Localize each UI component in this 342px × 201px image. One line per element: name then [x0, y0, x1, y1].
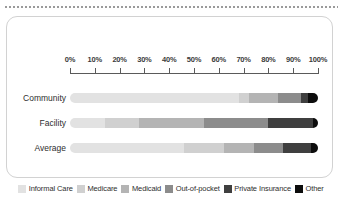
x-axis-tick-label: 80% [261, 55, 275, 64]
bar-row: Community [6, 92, 333, 104]
bar-segment[interactable] [70, 93, 239, 103]
x-axis: 0%10%20%30%40%50%60%70%80%90%100% [70, 56, 318, 78]
top-dotted-divider [4, 6, 338, 8]
legend-item[interactable]: Out-of-pocket [165, 184, 220, 193]
x-axis-tick-label: 50% [187, 55, 201, 64]
bar-segment[interactable] [224, 143, 254, 153]
legend-label: Out-of-pocket [176, 184, 220, 193]
chart-legend: Informal CareMedicareMedicaidOut-of-pock… [0, 184, 342, 193]
legend-label: Informal Care [29, 184, 73, 193]
x-axis-tick [70, 68, 71, 74]
x-axis-tick-label: 90% [286, 55, 300, 64]
legend-label: Medicare [87, 184, 117, 193]
x-axis-tick-label: 60% [212, 55, 226, 64]
x-axis-tick [268, 68, 269, 74]
legend-swatch-icon [165, 185, 173, 193]
bar-segment[interactable] [204, 118, 268, 128]
bar-segment[interactable] [249, 93, 279, 103]
bar-segment[interactable] [254, 143, 284, 153]
bar-row-label: Average [0, 142, 66, 154]
bar-row-label: Community [0, 92, 66, 104]
bar-segment[interactable] [278, 93, 300, 103]
x-axis-tick [144, 68, 145, 74]
legend-item[interactable]: Medicaid [121, 184, 161, 193]
x-axis-tick [169, 68, 170, 74]
x-axis-tick [219, 68, 220, 74]
legend-item[interactable]: Other [295, 184, 324, 193]
x-axis-tick [194, 68, 195, 74]
chart-plot-area: 0%10%20%30%40%50%60%70%80%90%100% Commun… [6, 16, 333, 178]
bar-segment[interactable] [268, 118, 313, 128]
bar-row: Facility [6, 117, 333, 129]
legend-label: Private Insurance [234, 184, 291, 193]
bar-segment[interactable] [311, 143, 318, 153]
x-axis-tick [120, 68, 121, 74]
x-axis-tick [95, 68, 96, 74]
legend-label: Other [305, 184, 323, 193]
legend-label: Medicaid [132, 184, 161, 193]
bar-segment[interactable] [139, 118, 203, 128]
x-axis-tick-label: 100% [309, 55, 327, 64]
legend-swatch-icon [295, 185, 303, 193]
legend-swatch-icon [77, 185, 85, 193]
stacked-bar[interactable] [70, 118, 318, 128]
x-axis-tick-label: 40% [162, 55, 176, 64]
x-axis-tick [318, 68, 319, 74]
legend-item[interactable]: Private Insurance [224, 184, 291, 193]
bar-segment[interactable] [313, 118, 318, 128]
x-axis-tick [293, 68, 294, 74]
x-axis-tick-label: 70% [236, 55, 250, 64]
legend-item[interactable]: Medicare [77, 184, 118, 193]
x-axis-tick-label: 10% [88, 55, 102, 64]
legend-swatch-icon [18, 185, 26, 193]
x-axis-tick [244, 68, 245, 74]
bar-segment[interactable] [308, 93, 318, 103]
bar-segment[interactable] [70, 143, 184, 153]
bar-segment[interactable] [283, 143, 310, 153]
legend-swatch-icon [121, 185, 129, 193]
bar-segment[interactable] [184, 143, 224, 153]
legend-swatch-icon [224, 185, 232, 193]
bar-segment[interactable] [239, 93, 249, 103]
stacked-bar[interactable] [70, 143, 318, 153]
x-axis-tick-label: 30% [137, 55, 151, 64]
bar-segment[interactable] [301, 93, 308, 103]
stacked-bar[interactable] [70, 93, 318, 103]
bar-row-label: Facility [0, 117, 66, 129]
x-axis-tick-label: 0% [65, 55, 75, 64]
x-axis-tick-label: 20% [112, 55, 126, 64]
bar-segment[interactable] [105, 118, 140, 128]
bar-segment[interactable] [70, 118, 105, 128]
bar-row: Average [6, 142, 333, 154]
legend-item[interactable]: Informal Care [18, 184, 73, 193]
